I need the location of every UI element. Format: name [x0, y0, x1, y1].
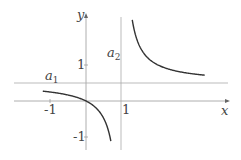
curve-right-branch — [132, 20, 205, 75]
tick-label-y-1: 1 — [77, 57, 85, 72]
tick-label-y-neg1: -1 — [73, 129, 86, 144]
y-axis-arrow-icon — [84, 13, 88, 18]
tick-label-x-1: 1 — [122, 102, 130, 117]
asymptote-label-a2: a2 — [107, 45, 121, 62]
tick-label-x-neg1: -1 — [44, 102, 57, 117]
x-axis-label: x — [221, 103, 229, 118]
y-axis-label: y — [76, 7, 85, 22]
graph: y x -1 1 1 -1 a1 a2 — [0, 0, 241, 160]
asymptote-label-a1: a1 — [45, 68, 59, 85]
